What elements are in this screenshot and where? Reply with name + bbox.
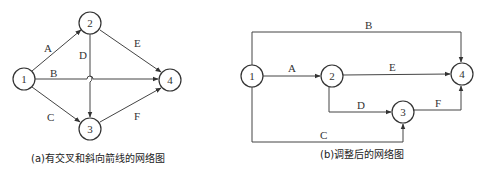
edge-label: F xyxy=(134,110,140,122)
edge-label: A xyxy=(288,62,296,74)
network-diagrams: A B C D E F 1 2 3 4 xyxy=(0,0,483,174)
edge-b-C xyxy=(252,87,403,142)
edge-label: E xyxy=(389,61,396,73)
edge-label: C xyxy=(320,129,327,141)
edge-label: A xyxy=(44,42,52,54)
edge-b-E xyxy=(343,74,450,75)
edge-b-B xyxy=(252,32,461,65)
edge-label: D xyxy=(357,99,365,111)
node-a-4: 4 xyxy=(159,69,181,91)
node-b-3: 3 xyxy=(392,101,414,123)
node-a-2: 2 xyxy=(79,12,101,34)
diagram-b: B A E D F C 1 2 3 4 xyxy=(241,19,473,142)
svg-text:3: 3 xyxy=(87,123,93,135)
caption-b: (b)调整后的网络图 xyxy=(320,146,404,161)
svg-text:3: 3 xyxy=(400,106,406,118)
svg-text:2: 2 xyxy=(329,70,335,82)
edge-label: E xyxy=(134,37,141,49)
svg-text:4: 4 xyxy=(459,68,465,80)
edge-a-E xyxy=(100,30,161,72)
node-a-3: 3 xyxy=(79,118,101,140)
edge-label: F xyxy=(435,97,441,109)
edge-a-D xyxy=(90,34,92,117)
svg-text:1: 1 xyxy=(249,70,255,82)
edge-a-C xyxy=(32,87,80,122)
node-a-1: 1 xyxy=(13,68,35,90)
edge-label: B xyxy=(50,67,57,79)
node-b-2: 2 xyxy=(321,65,343,87)
edge-label: B xyxy=(365,19,372,31)
edge-label: D xyxy=(79,49,87,61)
node-b-1: 1 xyxy=(241,65,263,87)
svg-text:2: 2 xyxy=(87,17,93,29)
edge-label: C xyxy=(47,111,54,123)
svg-text:1: 1 xyxy=(21,73,27,85)
caption-a: (a)有交叉和斜向箭线的网络图 xyxy=(31,150,165,165)
edge-a-F xyxy=(100,88,161,122)
svg-text:4: 4 xyxy=(167,74,173,86)
node-b-4: 4 xyxy=(451,63,473,85)
edge-a-A xyxy=(32,30,81,71)
diagram-a: A B C D E F 1 2 3 4 xyxy=(13,12,181,140)
